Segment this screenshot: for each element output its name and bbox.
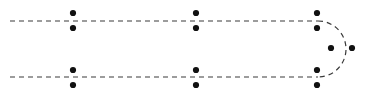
diagram-canvas: [0, 0, 367, 97]
data-point: [193, 10, 199, 16]
data-point: [314, 82, 320, 88]
data-point: [70, 25, 76, 31]
data-point: [193, 82, 199, 88]
marker-points-group: [70, 10, 355, 88]
data-point: [314, 10, 320, 16]
track-paths-group: [10, 21, 346, 77]
data-point: [70, 10, 76, 16]
data-point: [314, 67, 320, 73]
data-point: [193, 25, 199, 31]
data-point: [328, 45, 334, 51]
data-point: [70, 67, 76, 73]
diagram-svg: [0, 0, 367, 97]
data-point: [70, 82, 76, 88]
data-point: [349, 45, 355, 51]
data-point: [314, 25, 320, 31]
data-point: [193, 67, 199, 73]
